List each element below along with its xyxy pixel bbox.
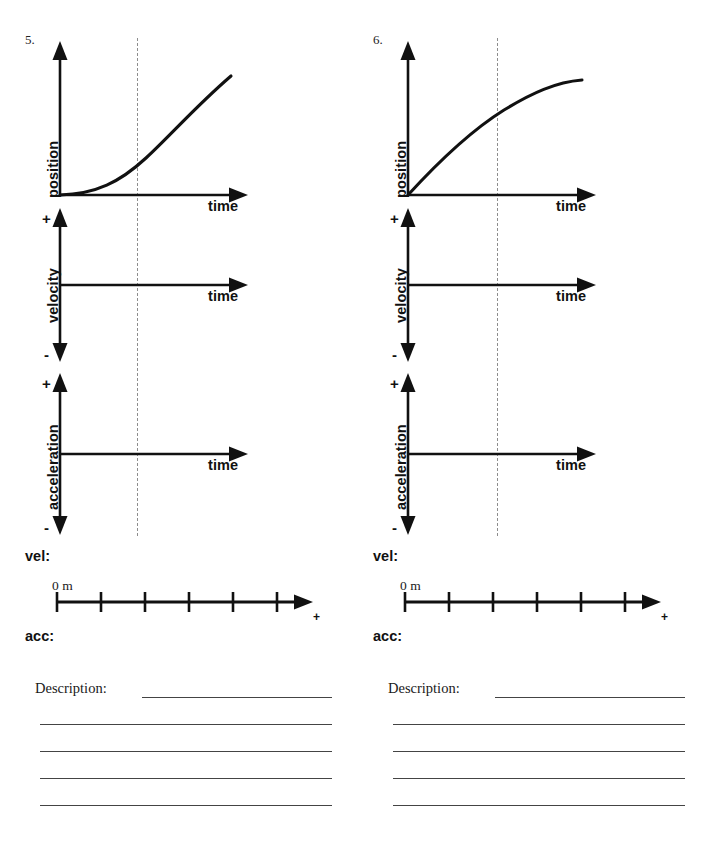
number-line-5 bbox=[0, 590, 360, 618]
y-axis-label-velocity: velocity bbox=[393, 268, 409, 323]
y-axis-negative-sign: - bbox=[392, 347, 397, 362]
y-axis-positive-sign: + bbox=[390, 211, 399, 226]
velocity-answer-label: vel: bbox=[373, 548, 398, 564]
x-axis-label-time: time bbox=[208, 457, 238, 473]
position-graph-6: position time bbox=[348, 38, 708, 208]
description-line[interactable] bbox=[393, 805, 685, 806]
worksheet-page: 5. position time bbox=[0, 0, 719, 849]
description-line[interactable] bbox=[393, 724, 685, 725]
acceleration-answer-label: acc: bbox=[373, 628, 402, 644]
number-line-positive-direction: + bbox=[661, 610, 668, 624]
description-line[interactable] bbox=[393, 778, 685, 779]
x-axis-label-time: time bbox=[556, 457, 586, 473]
number-line-6 bbox=[348, 590, 708, 618]
description-label: Description: bbox=[388, 680, 460, 697]
acceleration-graph-5: + - acceleration time bbox=[0, 370, 360, 540]
y-axis-label-acceleration: acceleration bbox=[393, 424, 409, 510]
x-axis-label-time: time bbox=[208, 288, 238, 304]
velocity-graph-5: + - velocity time bbox=[0, 205, 360, 365]
y-axis-positive-sign: + bbox=[390, 376, 399, 391]
x-axis-label-time: time bbox=[556, 288, 586, 304]
description-label: Description: bbox=[35, 680, 107, 697]
description-line[interactable] bbox=[40, 805, 332, 806]
y-axis-label-position: position bbox=[393, 141, 409, 198]
y-axis-negative-sign: - bbox=[44, 347, 49, 362]
position-graph-5: position time bbox=[0, 38, 360, 208]
velocity-answer-label: vel: bbox=[25, 548, 50, 564]
description-line[interactable] bbox=[40, 751, 332, 752]
y-axis-positive-sign: + bbox=[42, 376, 51, 391]
acceleration-graph-6: + - acceleration time bbox=[348, 370, 708, 540]
description-line[interactable] bbox=[142, 697, 332, 698]
y-axis-label-position: position bbox=[45, 141, 61, 198]
problem-column-5: 5. position time bbox=[0, 0, 360, 849]
description-line[interactable] bbox=[495, 697, 685, 698]
acceleration-answer-label: acc: bbox=[25, 628, 54, 644]
problem-column-6: 6. position time + bbox=[348, 0, 708, 849]
number-line-positive-direction: + bbox=[313, 610, 320, 624]
y-axis-label-velocity: velocity bbox=[45, 268, 61, 323]
description-line[interactable] bbox=[393, 751, 685, 752]
velocity-graph-6: + - velocity time bbox=[348, 205, 708, 365]
y-axis-negative-sign: - bbox=[44, 520, 49, 535]
y-axis-label-acceleration: acceleration bbox=[45, 424, 61, 510]
description-line[interactable] bbox=[40, 778, 332, 779]
y-axis-positive-sign: + bbox=[42, 211, 51, 226]
description-line[interactable] bbox=[40, 724, 332, 725]
y-axis-negative-sign: - bbox=[392, 520, 397, 535]
